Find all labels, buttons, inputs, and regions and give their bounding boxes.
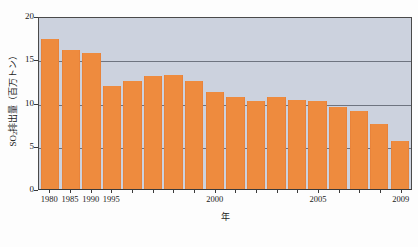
x-axis-tick-mark [380, 190, 381, 193]
x-axis-tick-mark [173, 190, 174, 193]
bar [164, 75, 182, 189]
bar [206, 92, 224, 189]
x-axis-tick-mark [359, 190, 360, 193]
x-axis-tick-label: 1995 [103, 194, 120, 204]
x-axis-tick-mark [153, 190, 154, 193]
x-axis-tick-mark [297, 190, 298, 193]
x-axis-tick-mark [194, 190, 195, 193]
x-axis-title: 年 [38, 210, 412, 223]
bar [62, 50, 80, 189]
x-axis-tick-mark [132, 190, 133, 193]
bar [247, 101, 265, 189]
y-axis-tick-mark [34, 104, 38, 105]
bar [144, 76, 162, 189]
bar-series [39, 18, 411, 189]
bar [123, 81, 141, 189]
x-axis-tick-mark [318, 190, 319, 193]
y-axis-tick-mark [34, 60, 38, 61]
x-axis-tick-mark [277, 190, 278, 193]
x-axis-tick-mark [235, 190, 236, 193]
bar [226, 97, 244, 189]
x-axis-tick-label: 1990 [82, 194, 99, 204]
y-axis-tick-label: 10 [14, 99, 34, 108]
bar [185, 81, 203, 189]
x-axis-tick-mark [91, 190, 92, 193]
x-axis-tick-mark [256, 190, 257, 193]
y-axis-tick-label: 5 [14, 142, 34, 151]
bar [41, 39, 59, 189]
y-axis-tick-mark [34, 147, 38, 148]
x-axis-tick-mark [401, 190, 402, 193]
plot-area [38, 17, 412, 190]
y-axis-tick-label: 20 [14, 12, 34, 21]
x-axis-tick-label: 2000 [206, 194, 223, 204]
so2-emissions-bar-chart: SO2排出量（百万トン） 20151050 198019851990199520… [0, 0, 418, 247]
y-axis-tick-labels: 20151050 [13, 0, 34, 247]
x-axis-tick-label: 2005 [310, 194, 327, 204]
bar [82, 53, 100, 189]
bar [308, 101, 326, 189]
bar [370, 124, 388, 189]
y-axis-tick-mark [34, 17, 38, 18]
x-axis-tick-label: 2009 [392, 194, 409, 204]
x-axis-tick-label: 1980 [41, 194, 58, 204]
x-axis-tick-mark [215, 190, 216, 193]
bar [329, 107, 347, 189]
x-axis-tick-mark [111, 190, 112, 193]
x-axis-tick-mark [49, 190, 50, 193]
bar [288, 100, 306, 189]
bar [350, 111, 368, 189]
y-axis-tick-label: 0 [14, 185, 34, 194]
bar [103, 86, 121, 189]
bar [391, 141, 409, 189]
y-axis-tick-mark [34, 190, 38, 191]
x-axis-tick-mark [339, 190, 340, 193]
x-axis-tick-label: 1985 [62, 194, 79, 204]
bar [267, 97, 285, 189]
x-axis-ticks: 1980198519901995200020052009 [38, 190, 412, 194]
x-axis-tick-mark [70, 190, 71, 193]
y-axis-tick-label: 15 [14, 55, 34, 64]
